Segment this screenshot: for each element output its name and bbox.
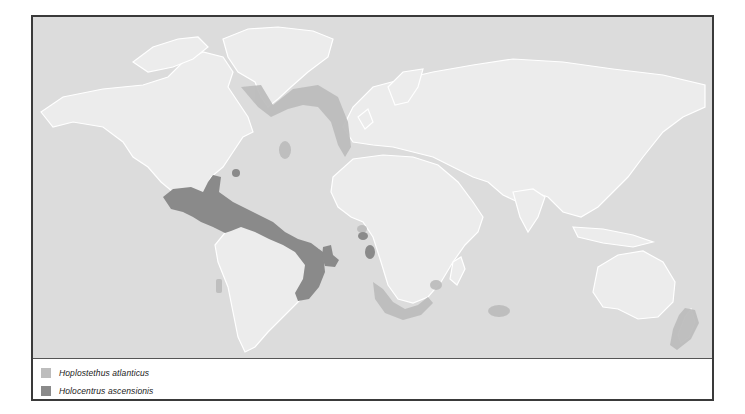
map-figure: Hoplostethus atlanticus Holocentrus asce… bbox=[31, 15, 714, 401]
range-mid-atlantic-patch bbox=[279, 141, 291, 159]
range-west-africa bbox=[365, 245, 375, 259]
range-chile-patch bbox=[216, 279, 222, 293]
legend-swatch-dark bbox=[41, 386, 51, 396]
range-bermuda bbox=[232, 169, 240, 177]
map-legend: Hoplostethus atlanticus Holocentrus asce… bbox=[33, 359, 712, 399]
range-madagascar-south bbox=[430, 280, 442, 290]
legend-item-holocentrus: Holocentrus ascensionis bbox=[41, 384, 153, 398]
legend-swatch-light bbox=[41, 368, 51, 378]
range-gulf-of-guinea bbox=[357, 225, 367, 233]
legend-item-hoplostethus: Hoplostethus atlanticus bbox=[41, 366, 149, 380]
range-south-indian-ocean bbox=[488, 305, 510, 317]
legend-label: Holocentrus ascensionis bbox=[59, 386, 153, 396]
legend-label: Hoplostethus atlanticus bbox=[59, 368, 149, 378]
range-gulf-of-guinea-dark bbox=[358, 232, 368, 240]
world-map bbox=[33, 17, 712, 359]
